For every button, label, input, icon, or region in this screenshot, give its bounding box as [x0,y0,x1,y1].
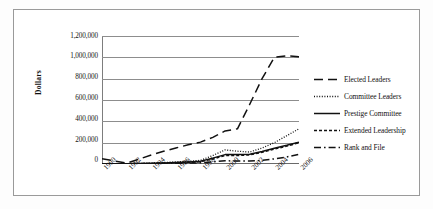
y-tick-label: 400,000 [75,115,98,123]
chart-legend: Elected Leaders Committee Leaders Presti… [314,72,432,162]
legend-item-committee-leaders: Committee Leaders [314,89,401,103]
legend-label: Extended Leadership [344,126,406,135]
y-axis-ticks: 1,200,000 1,000,000 800,000 600,000 400,… [14,10,98,209]
figure-frame: 1,200,000 1,000,000 800,000 600,000 400,… [13,9,420,196]
y-axis-title: Dollars [34,53,43,113]
dash-dot-key-icon [314,143,340,152]
y-tick-label: 1,200,000 [70,32,98,40]
dotted-key-icon [314,92,340,101]
legend-label: Prestige Committee [344,109,402,118]
series-line [102,129,299,164]
solid-key-icon [314,109,340,118]
legend-item-elected-leaders: Elected Leaders [314,72,391,86]
x-axis-ticks: 1990 1992 1994 1996 1998 2000 2002 2004 … [102,166,312,206]
y-tick-label: 800,000 [75,73,98,81]
y-tick-label: 1,000,000 [70,52,98,60]
y-tick-label: 200,000 [75,136,98,144]
legend-item-prestige-committee: Prestige Committee [314,106,402,120]
y-tick-label: 0 [95,156,99,164]
figure-container: 1,200,000 1,000,000 800,000 600,000 400,… [0,0,433,209]
plot-area [102,36,299,164]
y-tick-label: 600,000 [75,94,98,102]
legend-label: Elected Leaders [344,75,391,84]
dashed-key-icon [314,126,340,135]
legend-label: Committee Leaders [344,92,401,101]
series-lines [102,36,299,164]
long-dash-key-icon [314,75,340,84]
legend-item-rank-and-file: Rank and File [314,140,385,154]
series-line [102,56,299,163]
legend-item-extended-leadership: Extended Leadership [314,123,406,137]
x-tick-label: 2006 [299,156,315,172]
legend-label: Rank and File [344,143,385,152]
